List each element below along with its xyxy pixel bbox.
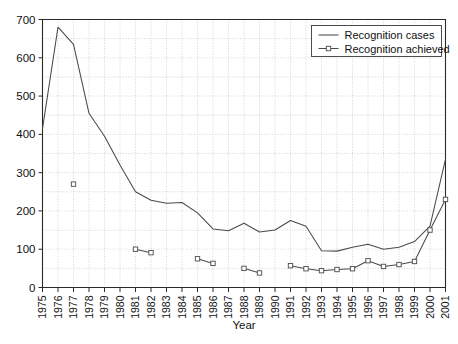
x-axis-tick-label: 1991 [284, 295, 296, 319]
x-axis-tick-label: 1976 [52, 295, 64, 319]
recognition-achieved-marker [428, 228, 432, 232]
y-axis-tick-label: 500 [16, 90, 35, 102]
recognition-achieved-marker [412, 259, 416, 263]
x-axis-tick-label: 1989 [253, 295, 265, 319]
recognition-achieved-marker [133, 247, 137, 251]
x-axis-tick-label: 1988 [238, 295, 250, 319]
x-axis-tick-label: 1983 [160, 295, 172, 319]
recognition-achieved-marker [149, 250, 153, 254]
recognition-achieved-marker [381, 264, 385, 268]
x-axis-tick-label: 2001 [439, 295, 451, 319]
recognition-achieved-marker [319, 268, 323, 272]
recognition-achieved-marker [195, 257, 199, 261]
legend-entry-label: Recognition cases [345, 29, 435, 41]
recognition-achieved-marker [211, 261, 215, 265]
y-axis-tick-label: 600 [16, 52, 35, 64]
recognition-achieved-marker [335, 267, 339, 271]
x-axis-tick-labels: 1975197619771978197919801981198219831984… [36, 295, 451, 319]
x-axis-tick-label: 1990 [269, 295, 281, 319]
recognition-achieved-marker [242, 266, 246, 270]
x-axis-tick-label: 1995 [346, 295, 358, 319]
recognition-achieved-marker [350, 267, 354, 271]
x-axis-tick-label: 1997 [377, 295, 389, 319]
x-axis-tick-label: 1986 [207, 295, 219, 319]
x-axis-tick-label: 1980 [114, 295, 126, 319]
y-axis-tick-label: 100 [16, 243, 35, 255]
x-axis-tick-label: 1998 [393, 295, 405, 319]
x-axis-tick-label: 1993 [315, 295, 327, 319]
x-axis-tick-label: 2000 [424, 295, 436, 319]
x-axis-title-label: Year [232, 319, 255, 331]
x-axis-title: Year [232, 319, 255, 331]
y-axis-tick-label: 300 [16, 167, 35, 179]
recognition-achieved-marker [71, 182, 75, 186]
grid-layer [43, 20, 446, 288]
legend-sample-marker [326, 46, 330, 50]
y-axis-tick-label: 700 [16, 14, 35, 26]
x-axis-tick-label: 1975 [36, 295, 48, 319]
recognition-achieved-marker [366, 259, 370, 263]
x-axis-tick-label: 1985 [191, 295, 203, 319]
recognition-achieved-marker [257, 271, 261, 275]
x-axis-tick-label: 1987 [222, 295, 234, 319]
x-axis-tick-label: 1984 [176, 295, 188, 319]
line-chart: 0100200300400500600700 19751976197719781… [0, 0, 458, 344]
x-axis-tick-label: 1978 [83, 295, 95, 319]
ticks-layer [39, 20, 446, 293]
legend-entry-label: Recognition achieved [345, 43, 450, 55]
recognition-achieved-marker [288, 263, 292, 267]
x-axis-tick-label: 1994 [331, 295, 343, 319]
x-axis-tick-label: 1977 [67, 295, 79, 319]
x-axis-tick-label: 1982 [145, 295, 157, 319]
x-axis-tick-label: 1992 [300, 295, 312, 319]
y-axis-tick-labels: 0100200300400500600700 [16, 14, 35, 294]
chart-legend: Recognition casesRecognition achieved [312, 26, 450, 57]
y-axis-tick-label: 0 [29, 282, 35, 294]
series-recognition-achieved [71, 182, 447, 275]
recognition-achieved-marker [443, 197, 447, 201]
chart-canvas: 0100200300400500600700 19751976197719781… [0, 0, 458, 344]
recognition-achieved-marker [397, 262, 401, 266]
y-axis-tick-label: 200 [16, 205, 35, 217]
y-axis-tick-label: 400 [16, 128, 35, 140]
x-axis-tick-label: 1996 [362, 295, 374, 319]
recognition-achieved-marker [304, 267, 308, 271]
x-axis-tick-label: 1979 [98, 295, 110, 319]
x-axis-tick-label: 1981 [129, 295, 141, 319]
x-axis-tick-label: 1999 [408, 295, 420, 319]
